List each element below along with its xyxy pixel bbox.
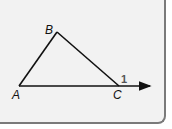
- vertex-label-c: C: [113, 88, 122, 102]
- vertex-label-a: A: [11, 88, 20, 102]
- side-bc: [57, 32, 119, 86]
- triangle-diagram: B A C 1: [0, 0, 172, 129]
- side-ab: [19, 32, 57, 86]
- vertex-label-b: B: [45, 23, 53, 37]
- angle-label-1: 1: [121, 73, 127, 85]
